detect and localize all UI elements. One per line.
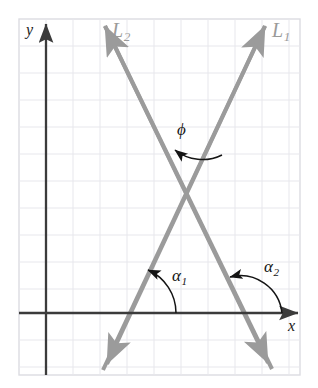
angle-label-alpha2: α2 bbox=[264, 258, 279, 275]
grid bbox=[19, 19, 300, 375]
line-label-L1: L1 bbox=[272, 20, 290, 40]
angle-label-alpha1-base: α bbox=[172, 266, 181, 285]
x-axis-label: x bbox=[288, 318, 295, 334]
angle-label-alpha1-subscript: 1 bbox=[181, 275, 187, 287]
line-label-L1-base: L bbox=[272, 19, 283, 41]
angle-label-alpha1: α1 bbox=[172, 267, 187, 284]
diagram-canvas bbox=[0, 0, 318, 388]
line-label-L2: L2 bbox=[112, 20, 130, 40]
grid-border bbox=[19, 19, 300, 375]
angle-label-phi: ϕ bbox=[177, 121, 186, 138]
y-axis-label: y bbox=[26, 22, 33, 38]
geometry-figure: y x L2 L1 ϕ α1 α2 bbox=[0, 0, 318, 388]
line-label-L1-subscript: 1 bbox=[284, 29, 291, 44]
line-label-L2-subscript: 2 bbox=[124, 29, 131, 44]
line-label-L2-base: L bbox=[112, 19, 123, 41]
angle-label-alpha2-base: α bbox=[264, 257, 273, 276]
angle-label-alpha2-subscript: 2 bbox=[273, 266, 279, 278]
